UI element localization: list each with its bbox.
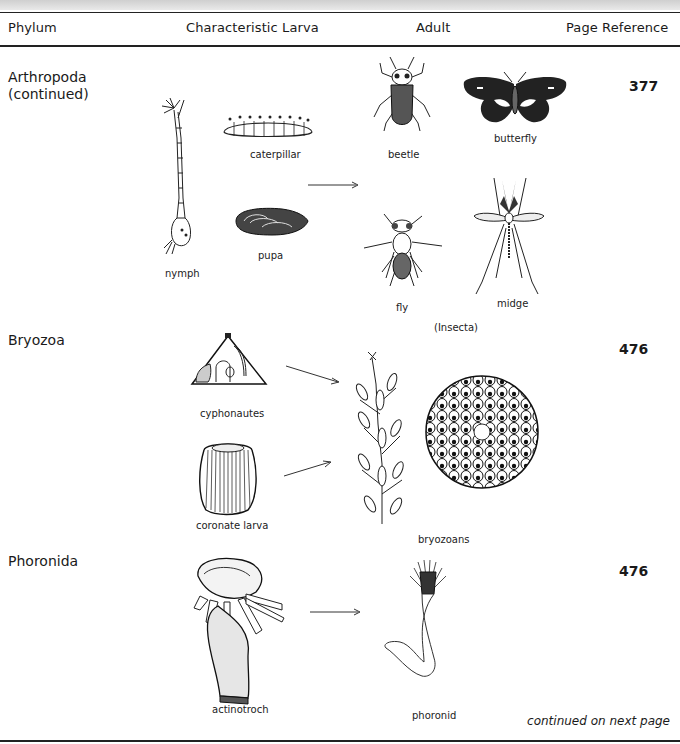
fly-illustration <box>362 212 444 292</box>
group-note-insecta: (Insecta) <box>434 322 478 333</box>
caption-butterfly: butterfly <box>494 133 537 144</box>
actinotroch-illustration <box>190 556 290 708</box>
page-top-band <box>0 0 680 10</box>
phoronid-illustration <box>384 558 484 704</box>
cyphonautes-illustration <box>188 332 270 392</box>
arrow-icon <box>284 458 334 478</box>
header-phylum: Phylum <box>8 20 57 35</box>
butterfly-illustration <box>460 70 570 128</box>
phylum-name: Bryozoa <box>8 332 65 349</box>
arrow-icon <box>308 180 360 190</box>
page-reference-bryozoa: 476 <box>619 341 648 357</box>
caption-coronate-larva: coronate larva <box>196 520 268 531</box>
phylum-phoronida: Phoronida <box>8 553 78 570</box>
header-adult: Adult <box>416 20 450 35</box>
header-characteristic-larva: Characteristic Larva <box>186 20 319 35</box>
top-rule <box>0 12 680 13</box>
caterpillar-illustration <box>220 112 316 140</box>
bryozoan-colony-illustration <box>424 374 540 490</box>
caption-phoronid: phoronid <box>412 710 456 721</box>
phylum-arthropoda: Arthropoda (continued) <box>8 69 89 103</box>
bryozoan-branch-illustration <box>352 344 412 530</box>
midge-illustration <box>472 178 548 294</box>
phylum-name: Phoronida <box>8 553 78 570</box>
phylum-subtitle: (continued) <box>8 86 89 103</box>
caption-nymph: nymph <box>165 268 200 279</box>
phylum-bryozoa: Bryozoa <box>8 332 65 349</box>
caption-cyphonautes: cyphonautes <box>200 408 264 419</box>
arrow-icon <box>310 607 362 617</box>
bottom-rule <box>0 740 680 742</box>
caption-fly: fly <box>396 302 408 313</box>
caption-actinotroch: actinotroch <box>212 704 269 715</box>
caption-pupa: pupa <box>258 250 283 261</box>
nymph-illustration <box>160 98 210 258</box>
page-reference-arthropoda: 377 <box>629 78 658 94</box>
arrow-icon <box>286 364 342 386</box>
caption-caterpillar: caterpillar <box>250 149 301 160</box>
beetle-illustration <box>370 55 434 135</box>
continued-on-next-page: continued on next page <box>527 714 670 728</box>
coronate-larva-illustration <box>196 440 260 516</box>
caption-bryozoans: bryozoans <box>418 534 470 545</box>
pupa-illustration <box>232 205 312 239</box>
caption-beetle: beetle <box>388 149 420 160</box>
phylum-name: Arthropoda <box>8 69 89 86</box>
header-page-reference: Page Reference <box>566 20 668 35</box>
page-reference-phoronida: 476 <box>619 563 648 579</box>
header-rule <box>0 45 680 47</box>
caption-midge: midge <box>497 298 528 309</box>
